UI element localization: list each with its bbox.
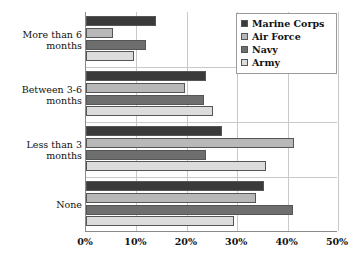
x-axis-tick-label: 30%	[216, 236, 256, 247]
bar-navy	[86, 95, 204, 105]
bar-marine-corps	[86, 126, 222, 136]
bar-army	[86, 161, 266, 171]
x-axis-tick-label: 20%	[166, 236, 206, 247]
legend-label: Air Force	[252, 31, 301, 42]
bar-navy	[86, 40, 146, 50]
bar-navy	[86, 150, 206, 160]
legend-swatch-icon	[241, 33, 248, 40]
category-label-none: None	[0, 199, 82, 210]
bar-marine-corps	[86, 71, 206, 81]
category-label-more-than-6-months: More than 6months	[0, 29, 82, 51]
x-axis-tick-label: 40%	[267, 236, 307, 247]
bar-group	[86, 67, 337, 122]
bar-group	[86, 122, 337, 177]
bar-marine-corps	[86, 181, 264, 191]
legend-swatch-icon	[241, 59, 248, 66]
bar-air-force	[86, 28, 113, 38]
legend-label: Navy	[252, 44, 278, 55]
legend-item-army: Army	[241, 56, 332, 69]
legend-item-air-force: Air Force	[241, 30, 332, 43]
bar-chart: More than 6months Between 3-6months Less…	[0, 0, 361, 266]
bar-air-force	[86, 193, 256, 203]
bar-air-force	[86, 138, 294, 148]
legend-swatch-icon	[241, 20, 248, 27]
bar-air-force	[86, 83, 185, 93]
legend-label: Army	[252, 57, 280, 68]
bar-marine-corps	[86, 16, 156, 26]
bar-navy	[86, 205, 293, 215]
x-axis-tick-label: 10%	[115, 236, 155, 247]
legend: Marine Corps Air Force Navy Army	[236, 13, 337, 74]
category-label-between-3-6-months: Between 3-6months	[0, 84, 82, 106]
legend-item-navy: Navy	[241, 43, 332, 56]
category-label-less-than-3-months: Less than 3months	[0, 139, 82, 161]
bar-army	[86, 216, 234, 226]
legend-item-marine-corps: Marine Corps	[241, 17, 332, 30]
legend-swatch-icon	[241, 46, 248, 53]
legend-label: Marine Corps	[252, 18, 324, 29]
x-axis-tick-label: 0%	[65, 236, 105, 247]
gridline	[338, 12, 339, 231]
x-axis-tick-label: 50%	[317, 236, 357, 247]
bar-group	[86, 177, 337, 232]
bar-army	[86, 51, 134, 61]
bar-army	[86, 106, 213, 116]
